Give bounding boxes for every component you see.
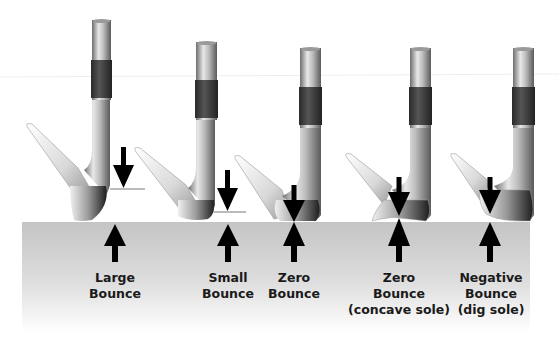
club-blade (346, 154, 392, 206)
club-negative-bounce (451, 47, 535, 221)
label-large-bounce: Large Bounce (89, 270, 141, 302)
club-sole (178, 200, 214, 220)
club-shaft-top (514, 47, 534, 51)
down-arrow-icon (113, 147, 134, 188)
label-zero-bounce-concave: Zero Bounce (concave sole) (348, 270, 450, 318)
label-small-bounce: Small Bounce (202, 270, 254, 302)
label-zero-bounce: Zero Bounce (268, 270, 320, 302)
label-line: (concave sole) (348, 302, 450, 318)
club-sole (70, 186, 107, 221)
club-blade (27, 124, 90, 197)
club-grip-band (409, 87, 432, 125)
club-zero-bounce-concave (346, 47, 432, 221)
label-line: (dig sole) (458, 302, 525, 318)
club-zero-bounce (235, 47, 322, 222)
label-line: Bounce (202, 286, 254, 302)
label-line: Bounce (89, 286, 141, 302)
label-line: Negative (458, 270, 525, 286)
label-line: Small (202, 270, 254, 286)
label-line: Bounce (348, 286, 450, 302)
background-guide-line (0, 74, 559, 77)
label-line: Large (89, 270, 141, 286)
club-grip-band (195, 80, 218, 118)
down-arrow-icon (217, 170, 238, 211)
club-grip-band (299, 87, 322, 125)
club-shaft-top (301, 47, 321, 51)
club-large-bounce (27, 19, 145, 221)
label-line: Zero (268, 270, 320, 286)
club-hosel (84, 98, 110, 195)
club-shaft-top (411, 47, 431, 51)
label-line: Bounce (458, 286, 525, 302)
label-line: Zero (348, 270, 450, 286)
club-grip-band (91, 60, 112, 98)
club-shaft-top (93, 19, 111, 23)
club-grip-band (512, 87, 535, 125)
club-small-bounce (135, 41, 246, 220)
label-negative-bounce: Negative Bounce (dig sole) (458, 270, 525, 318)
label-line: Bounce (268, 286, 320, 302)
club-shaft-top (197, 41, 217, 45)
